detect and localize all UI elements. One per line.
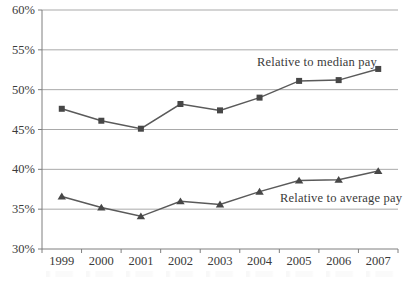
marker-square <box>177 101 183 107</box>
y-tick-label: 55% <box>12 43 35 57</box>
y-tick-label: 50% <box>12 83 35 97</box>
marker-triangle <box>374 167 382 174</box>
y-tick-label: 45% <box>12 123 35 137</box>
y-tick-label: 35% <box>12 202 35 216</box>
marker-square <box>138 126 144 132</box>
x-tick-label: 2005 <box>287 254 312 268</box>
series-label-median: Relative to median pay <box>257 55 377 70</box>
marker-square <box>217 107 223 113</box>
x-tick-label: 1999 <box>49 254 74 268</box>
cutoff-footnote-remnant <box>46 271 396 277</box>
x-tick-label: 2002 <box>168 254 193 268</box>
series-label-average: Relative to average pay <box>280 191 402 206</box>
x-tick-label: 2003 <box>208 254 233 268</box>
x-tick-label: 2007 <box>366 254 391 268</box>
y-tick-label: 60% <box>12 3 35 17</box>
y-tick-label: 40% <box>12 162 35 176</box>
x-tick-label: 2006 <box>326 254 351 268</box>
y-tick-label: 30% <box>12 242 35 256</box>
x-tick-label: 2004 <box>247 254 273 268</box>
marker-square <box>98 118 104 124</box>
series-line-square <box>62 69 378 129</box>
marker-triangle <box>58 193 66 200</box>
marker-square <box>59 106 65 112</box>
line-chart-canvas: 30%35%40%45%50%55%60%1999200020012002200… <box>0 0 406 281</box>
marker-square <box>257 95 263 101</box>
x-tick-label: 2000 <box>89 254 114 268</box>
marker-square <box>296 78 302 84</box>
marker-square <box>336 77 342 83</box>
chart-figure: 30%35%40%45%50%55%60%1999200020012002200… <box>0 0 406 281</box>
x-tick-label: 2001 <box>128 254 153 268</box>
